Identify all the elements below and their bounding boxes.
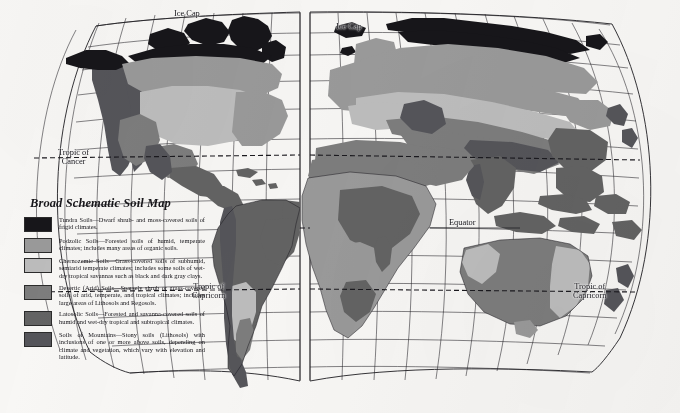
label-tropic-of-capricorn-right-line1: Tropic of bbox=[574, 282, 605, 291]
legend-text-desertic-soils: Desertic (Arid) Soils—Sparsely shrub or … bbox=[59, 284, 205, 306]
legend-item-latosolic-soils: Latosolic Soils—Forested and savanna-cov… bbox=[24, 310, 206, 326]
legend-item-desertic-soils: Desertic (Arid) Soils—Sparsely shrub or … bbox=[24, 284, 206, 306]
legend-text-soils-of-mountains: Soils of Mountains—Stony soils (Lithosol… bbox=[59, 331, 205, 361]
legend-swatch-chernozemic-soils bbox=[24, 258, 52, 273]
label-tropic-of-capricorn-right: Tropic of Capricorn bbox=[573, 282, 607, 300]
label-ice-cap-left: Ice Cap bbox=[174, 9, 200, 18]
label-ice-cap-right: Ice Cap bbox=[336, 22, 362, 31]
legend-text-podzolic-soils: Podzolic Soils—Forested soils of humid, … bbox=[59, 237, 205, 252]
legend-swatch-soils-of-mountains bbox=[24, 332, 52, 347]
legend-swatch-tundra-soils bbox=[24, 217, 52, 232]
label-equator: Equator bbox=[449, 218, 476, 227]
legend-item-chernozemic-soils: Chernozemic Soils—Grass-covered soils of… bbox=[24, 257, 206, 279]
legend-text-tundra-soils: Tundra Soils—Dwarf shrub- and moss-cover… bbox=[59, 216, 205, 231]
label-tropic-of-cancer: Tropic of Cancer bbox=[58, 148, 89, 166]
legend-item-podzolic-soils: Podzolic Soils—Forested soils of humid, … bbox=[24, 237, 206, 253]
label-tropic-of-capricorn-right-line2: Capricorn bbox=[573, 291, 607, 300]
legend-item-tundra-soils: Tundra Soils—Dwarf shrub- and moss-cover… bbox=[24, 216, 206, 232]
legend-swatch-podzolic-soils bbox=[24, 238, 52, 253]
soil-map-figure: .tundra{fill:#17161a;} .podzolic{fill:#9… bbox=[0, 0, 680, 413]
label-tropic-of-cancer-line2: Cancer bbox=[62, 157, 86, 166]
legend-swatch-latosolic-soils bbox=[24, 311, 52, 326]
legend-title: Broad Schematic Soil Map bbox=[30, 196, 206, 211]
legend-swatch-desertic-soils bbox=[24, 285, 52, 300]
legend-text-chernozemic-soils: Chernozemic Soils—Grass-covered soils of… bbox=[59, 257, 205, 279]
map-legend: Broad Schematic Soil Map Tundra Soils—Dw… bbox=[24, 196, 206, 365]
legend-item-soils-of-mountains: Soils of Mountains—Stony soils (Lithosol… bbox=[24, 331, 206, 361]
legend-text-latosolic-soils: Latosolic Soils—Forested and savanna-cov… bbox=[59, 310, 205, 325]
label-tropic-of-cancer-line1: Tropic of bbox=[58, 148, 89, 157]
